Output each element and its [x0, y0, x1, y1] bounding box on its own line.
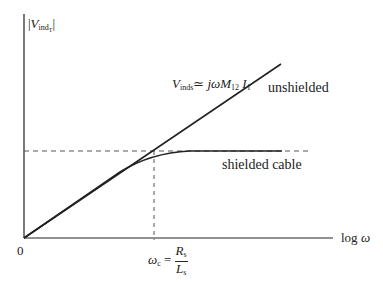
- induced-voltage-equation: Vinds≃ jωM12 I1: [172, 76, 251, 92]
- origin-label: 0: [17, 243, 24, 259]
- x-axis-label: log ω: [341, 230, 370, 246]
- shielded-cable-label: shielded cable: [222, 157, 302, 173]
- diagram-canvas: [0, 0, 383, 284]
- corner-frequency-label: ωc = Rs Ls: [148, 244, 188, 279]
- y-axis-label: |VindT|: [28, 16, 55, 33]
- unshielded-label: unshielded: [268, 80, 329, 96]
